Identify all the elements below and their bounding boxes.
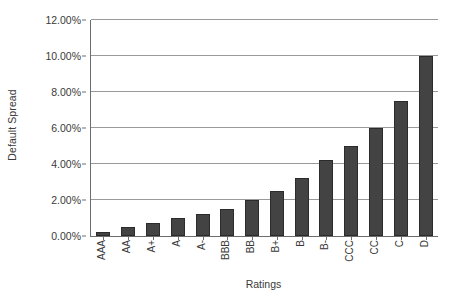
y-axis-ticks: 0.00%2.00%4.00%6.00%8.00%10.00%12.00% bbox=[26, 0, 86, 250]
x-tick-slot: B bbox=[288, 240, 313, 276]
y-tick-mark bbox=[82, 236, 86, 237]
bar-slot bbox=[165, 20, 190, 236]
bar bbox=[121, 227, 135, 236]
x-tick-label-text: BBB bbox=[221, 240, 231, 260]
y-tick-mark bbox=[82, 128, 86, 129]
bar-slot bbox=[413, 20, 438, 236]
x-tick-slot: A bbox=[164, 240, 189, 276]
x-tick-slot: BBB bbox=[214, 240, 239, 276]
x-tick-label-text: CC bbox=[370, 240, 380, 254]
bar bbox=[196, 214, 210, 237]
bar bbox=[295, 178, 309, 237]
x-axis-ticks: AAAAAA+AA-BBBBBB+BB-CCCCCCD bbox=[90, 240, 437, 276]
bar bbox=[419, 56, 433, 236]
x-tick-label-text: A+ bbox=[147, 240, 157, 253]
bar bbox=[220, 209, 234, 236]
bar-slot bbox=[240, 20, 265, 236]
bar bbox=[319, 160, 333, 237]
bar bbox=[146, 223, 160, 237]
x-tick-label-text: CCC bbox=[345, 240, 355, 262]
bar-slot bbox=[339, 20, 364, 236]
y-tick-label: 6.00% bbox=[51, 123, 81, 134]
bar-slot bbox=[190, 20, 215, 236]
x-tick-label-text: B bbox=[296, 240, 306, 247]
y-tick-label: 10.00% bbox=[45, 51, 81, 62]
bar-slot bbox=[388, 20, 413, 236]
bars-group bbox=[91, 20, 438, 236]
x-tick-label-text: A- bbox=[197, 240, 207, 250]
bar-slot bbox=[141, 20, 166, 236]
x-tick-slot: B+ bbox=[263, 240, 288, 276]
y-tick-mark bbox=[82, 20, 86, 21]
y-tick-mark bbox=[82, 92, 86, 93]
bar bbox=[270, 191, 284, 236]
bar-slot bbox=[91, 20, 116, 236]
bar-slot bbox=[314, 20, 339, 236]
x-tick-label-text: AAA bbox=[97, 240, 107, 260]
x-tick-label-text: B- bbox=[320, 240, 330, 250]
bar bbox=[394, 101, 408, 236]
bar-chart: Default Spread 0.00%2.00%4.00%6.00%8.00%… bbox=[0, 0, 457, 300]
x-tick-slot: C bbox=[387, 240, 412, 276]
x-tick-slot: A+ bbox=[140, 240, 165, 276]
y-tick-label: 0.00% bbox=[51, 231, 81, 242]
x-tick-slot: CC bbox=[363, 240, 388, 276]
x-tick-slot: D bbox=[412, 240, 437, 276]
x-tick-slot: AA bbox=[115, 240, 140, 276]
x-tick-slot: BB bbox=[239, 240, 264, 276]
x-tick-slot: B- bbox=[313, 240, 338, 276]
x-tick-label-text: B+ bbox=[271, 240, 281, 253]
x-tick-slot: CCC bbox=[338, 240, 363, 276]
x-tick-label-text: AA bbox=[122, 240, 132, 253]
y-tick-label: 12.00% bbox=[45, 15, 81, 26]
y-tick-mark bbox=[82, 164, 86, 165]
plot-area bbox=[90, 20, 438, 237]
bar-slot bbox=[289, 20, 314, 236]
x-tick-label-text: A bbox=[172, 240, 182, 247]
bar-slot bbox=[215, 20, 240, 236]
x-axis-title: Ratings bbox=[90, 278, 437, 290]
bar bbox=[369, 128, 383, 236]
x-tick-label-text: D bbox=[420, 240, 430, 247]
y-tick-mark bbox=[82, 56, 86, 57]
bar-slot bbox=[116, 20, 141, 236]
x-tick-label-text: C bbox=[395, 240, 405, 247]
x-tick-slot: AAA bbox=[90, 240, 115, 276]
bar bbox=[171, 218, 185, 236]
y-axis-title: Default Spread bbox=[0, 0, 24, 250]
y-tick-mark bbox=[82, 200, 86, 201]
x-tick-label-text: BB bbox=[246, 240, 256, 253]
bar-slot bbox=[364, 20, 389, 236]
bar bbox=[245, 200, 259, 236]
bar-slot bbox=[264, 20, 289, 236]
y-axis-title-text: Default Spread bbox=[6, 89, 18, 160]
y-tick-label: 8.00% bbox=[51, 87, 81, 98]
y-tick-label: 2.00% bbox=[51, 195, 81, 206]
bar bbox=[344, 146, 358, 236]
x-tick-slot: A- bbox=[189, 240, 214, 276]
y-tick-label: 4.00% bbox=[51, 159, 81, 170]
x-axis-title-text: Ratings bbox=[246, 278, 282, 290]
